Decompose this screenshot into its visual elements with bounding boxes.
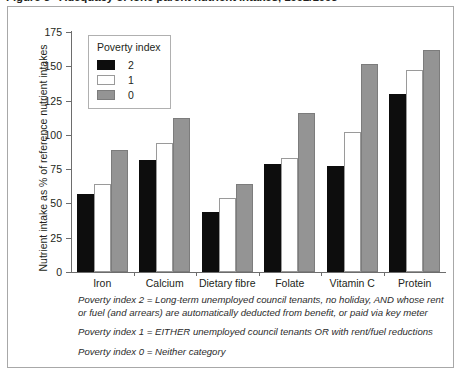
bar-calcium-index-2 bbox=[139, 160, 156, 272]
legend-label: 1 bbox=[128, 74, 134, 86]
x-axis-tick bbox=[134, 272, 135, 276]
legend-label: 0 bbox=[128, 89, 134, 101]
x-axis-label-protein: Protein bbox=[398, 277, 431, 289]
y-axis-tick-label: 150 bbox=[22, 60, 62, 72]
footnotes: Poverty index 2 = Long-term unemployed c… bbox=[78, 294, 446, 358]
bar-group bbox=[259, 32, 322, 272]
footnote-3: Poverty index 0 = Neither category bbox=[78, 346, 446, 359]
y-axis-tick-label: 75 bbox=[22, 163, 62, 175]
y-axis-tick-label: 25 bbox=[22, 232, 62, 244]
bar-iron-index-0 bbox=[111, 150, 128, 272]
bar-dietary-fibre-index-2 bbox=[202, 212, 219, 272]
y-axis-tick-label: 175 bbox=[22, 26, 62, 38]
legend-entry-0: 0 bbox=[97, 87, 161, 102]
bar-folate-index-2 bbox=[264, 164, 281, 272]
x-axis-label-dietary-fibre: Dietary fibre bbox=[199, 277, 256, 289]
x-axis-tick bbox=[259, 272, 260, 276]
bar-calcium-index-1 bbox=[156, 143, 173, 272]
bar-folate-index-0 bbox=[298, 113, 315, 272]
bar-folate-index-1 bbox=[281, 158, 298, 272]
bar-iron-index-1 bbox=[94, 184, 111, 272]
bar-group bbox=[196, 32, 259, 272]
legend-swatch-grey bbox=[97, 90, 115, 100]
bar-protein-index-2 bbox=[389, 94, 406, 272]
legend-entries: 210 bbox=[97, 57, 161, 102]
legend-swatch-white bbox=[97, 75, 115, 85]
bar-vitamin-c-index-1 bbox=[344, 132, 361, 272]
bar-group bbox=[384, 32, 447, 272]
bar-protein-index-0 bbox=[423, 50, 440, 272]
x-axis-label-vitamin-c: Vitamin C bbox=[330, 277, 375, 289]
y-axis-tick-label: 100 bbox=[22, 129, 62, 141]
y-tick-labels: 0255075100125150175 bbox=[20, 0, 62, 373]
x-axis-label-iron: Iron bbox=[93, 277, 111, 289]
bar-vitamin-c-index-2 bbox=[327, 166, 344, 272]
x-axis-label-calcium: Calcium bbox=[146, 277, 184, 289]
bar-vitamin-c-index-0 bbox=[361, 64, 378, 272]
footnote-1: Poverty index 2 = Long-term unemployed c… bbox=[78, 294, 446, 319]
bar-group bbox=[321, 32, 384, 272]
x-axis-tick bbox=[196, 272, 197, 276]
y-axis-tick-label: 50 bbox=[22, 197, 62, 209]
legend: Poverty index 210 bbox=[88, 35, 171, 109]
y-axis-tick-label: 125 bbox=[22, 95, 62, 107]
x-axis-tick bbox=[321, 272, 322, 276]
bar-calcium-index-0 bbox=[173, 118, 190, 272]
x-axis-tick bbox=[384, 272, 385, 276]
legend-entry-2: 2 bbox=[97, 57, 161, 72]
bar-dietary-fibre-index-0 bbox=[236, 184, 253, 272]
bar-dietary-fibre-index-1 bbox=[219, 198, 236, 272]
figure-title-text: Adequacy of lone parent nutrient intakes… bbox=[59, 0, 338, 3]
legend-label: 2 bbox=[128, 59, 134, 71]
bar-protein-index-1 bbox=[406, 70, 423, 272]
legend-swatch-black bbox=[97, 60, 115, 70]
footnote-2: Poverty index 1 = EITHER unemployed coun… bbox=[78, 326, 446, 339]
legend-entry-1: 1 bbox=[97, 72, 161, 87]
y-axis-tick bbox=[66, 272, 71, 273]
bar-iron-index-2 bbox=[77, 194, 94, 272]
legend-title: Poverty index bbox=[97, 41, 161, 53]
x-axis-label-folate: Folate bbox=[275, 277, 304, 289]
y-axis-tick-label: 0 bbox=[22, 266, 62, 278]
